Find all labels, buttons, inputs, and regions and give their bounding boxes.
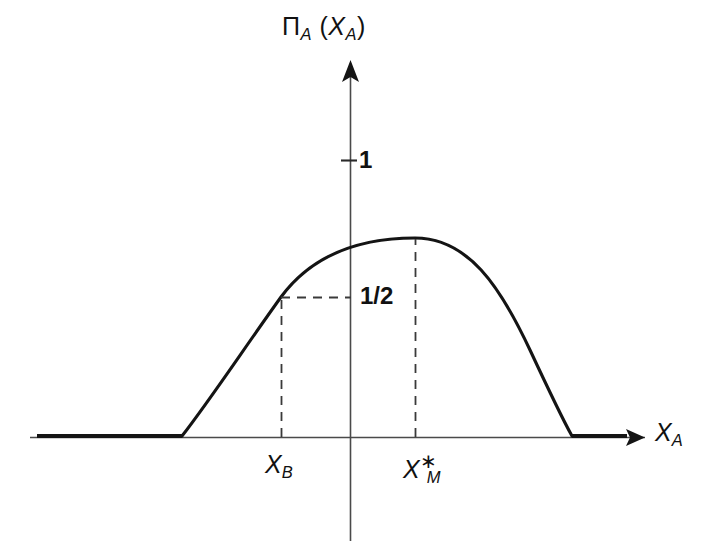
y-tick-label-one: 1: [359, 148, 372, 172]
x-tick-label-xm-subscript: M: [427, 468, 441, 486]
y-axis-title-open-paren: (: [312, 12, 328, 40]
figure-container: ΠA (XA) XA 1 1/2 XB X∗M: [0, 0, 716, 558]
x-tick-label-xm-base: X: [403, 455, 420, 483]
x-tick-label-xb: XB: [265, 452, 293, 480]
x-axis-title-variable: X: [655, 418, 672, 446]
x-tick-label-xb-subscript: B: [282, 463, 293, 481]
y-axis-title-pi-subscript: A: [301, 25, 313, 43]
y-tick-label-half: 1/2: [360, 284, 393, 308]
chart-canvas: [0, 0, 716, 558]
y-axis-title-variable-subscript: A: [346, 25, 358, 43]
x-axis-title-subscript: A: [672, 431, 683, 449]
x-tick-label-xm: X∗M: [403, 452, 440, 486]
y-axis-title-variable: X: [328, 12, 345, 40]
y-axis-title-pi: Π: [282, 12, 301, 40]
x-axis-title: XA: [655, 420, 683, 448]
y-axis-title-close-paren: ): [357, 12, 366, 40]
y-axis-title: ΠA (XA): [282, 14, 366, 42]
x-tick-label-xb-base: X: [265, 450, 282, 478]
profit-curve: [182, 238, 572, 436]
